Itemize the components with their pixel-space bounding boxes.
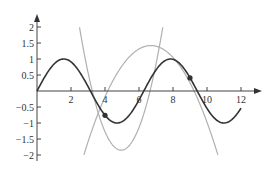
x-tick-label: 12 [236, 94, 246, 105]
points [102, 75, 192, 118]
data-point-marker [102, 113, 107, 118]
y-tick-label: 2 [29, 22, 34, 33]
data-point-marker [187, 75, 192, 80]
y-tick-label: −0.5 [16, 102, 34, 113]
x-tick-label: 2 [69, 94, 74, 105]
y-axis-arrow-icon [34, 14, 40, 22]
sine-approximation-chart: 24681012 21.510.5−0.5−1−1.5−2 [0, 0, 274, 172]
y-tick-label: −1 [23, 118, 34, 129]
x-tick-label: 8 [171, 94, 176, 105]
x-axis-arrow-icon [254, 88, 262, 94]
y-tick-label: 1 [29, 54, 34, 65]
y-tick-label: 1.5 [22, 38, 35, 49]
x-tick-label: 4 [103, 94, 108, 105]
y-tick-label: −2 [23, 150, 34, 161]
y-tick-label: −1.5 [16, 134, 34, 145]
y-tick-label: 0.5 [22, 70, 35, 81]
